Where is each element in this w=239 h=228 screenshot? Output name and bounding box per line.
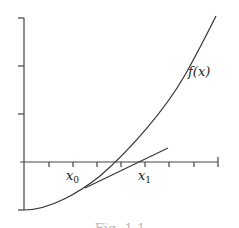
function-curve: [24, 16, 216, 210]
axes: [18, 18, 218, 210]
figure-caption: Fig. 1.1: [95, 221, 145, 228]
tangent-line: [85, 148, 168, 188]
x1-label: x1: [138, 168, 151, 185]
function-label: f(x): [187, 64, 210, 79]
x0-label: x0: [66, 168, 79, 185]
newton-method-diagram: x0 x1 f(x) Fig. 1.1: [0, 0, 239, 228]
